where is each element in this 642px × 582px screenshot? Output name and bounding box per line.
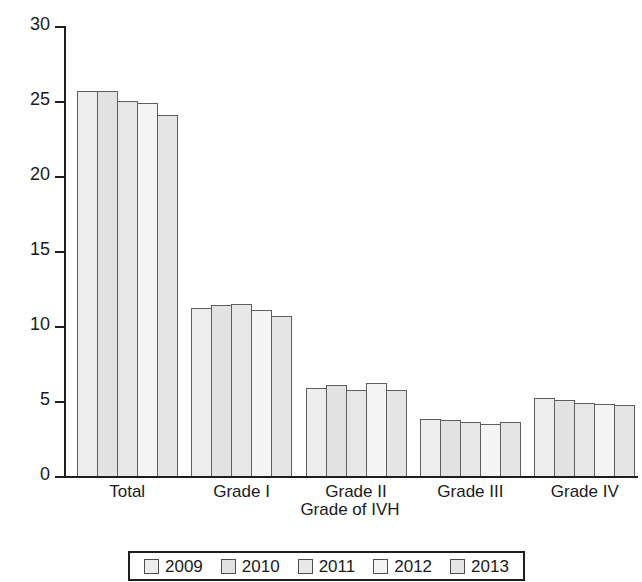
bar <box>191 308 212 476</box>
y-axis-tick-label: 10 <box>30 315 50 333</box>
legend-swatch-icon <box>221 559 236 574</box>
y-axis-tick: 15 <box>55 251 64 253</box>
y-axis-tick: 30 <box>55 26 64 28</box>
legend-swatch-icon <box>144 559 159 574</box>
y-axis-line <box>64 26 66 477</box>
legend-item: 2010 <box>221 558 280 575</box>
y-axis-tick-label: 25 <box>30 90 50 108</box>
bar <box>77 91 98 477</box>
bar <box>460 422 481 476</box>
plot-area: 051015202530 TotalGrade IGrade IIGrade I… <box>64 26 636 476</box>
bar-group <box>191 26 292 476</box>
bar <box>157 115 178 477</box>
y-axis-tick: 20 <box>55 176 64 178</box>
bar-chart-figure: Percentage of infants with IVH 051015202… <box>0 0 642 582</box>
bar <box>117 101 138 476</box>
legend-item: 2009 <box>144 558 203 575</box>
legend-item: 2011 <box>298 558 356 575</box>
bar <box>420 419 441 476</box>
y-axis-tick: 25 <box>55 101 64 103</box>
bar <box>97 91 118 477</box>
bar <box>137 103 158 477</box>
y-axis-tick: 0 <box>55 476 64 478</box>
x-axis-line <box>64 476 638 478</box>
chart-legend: 20092010201120122013 <box>128 551 525 581</box>
y-axis-tick-label: 5 <box>40 390 50 408</box>
legend-label: 2010 <box>242 558 280 575</box>
bar <box>534 398 555 476</box>
y-axis-tick-label: 0 <box>40 465 50 483</box>
y-axis-tick: 10 <box>55 326 64 328</box>
bar-group <box>534 26 635 476</box>
bar <box>251 310 272 477</box>
bar <box>271 316 292 477</box>
bar <box>346 390 367 476</box>
bar <box>574 403 595 476</box>
bar <box>440 420 461 476</box>
x-axis-tick-label: Grade IV <box>504 482 642 502</box>
legend-item: 2012 <box>373 558 432 575</box>
bar-group <box>420 26 521 476</box>
bar <box>554 400 575 477</box>
bar <box>231 304 252 477</box>
bar-group <box>306 26 407 476</box>
y-axis-tick-label: 30 <box>30 15 50 33</box>
bar <box>594 404 615 476</box>
legend-label: 2009 <box>165 558 203 575</box>
x-axis-title: Grade of IVH <box>64 500 636 520</box>
bar <box>480 424 501 477</box>
bar <box>211 305 232 476</box>
y-axis-tick-label: 20 <box>30 165 50 183</box>
bar <box>386 390 407 476</box>
bar <box>614 405 635 476</box>
legend-label: 2013 <box>471 558 509 575</box>
legend-swatch-icon <box>373 559 388 574</box>
legend-swatch-icon <box>298 559 313 574</box>
legend-label: 2011 <box>319 558 356 575</box>
legend-item: 2013 <box>450 558 509 575</box>
bar <box>500 422 521 476</box>
y-axis-tick: 5 <box>55 401 64 403</box>
y-axis-tick-label: 15 <box>30 240 50 258</box>
legend-swatch-icon <box>450 559 465 574</box>
bar-group <box>77 26 178 476</box>
bar <box>366 383 387 476</box>
bar <box>326 385 347 476</box>
bar <box>306 388 327 477</box>
legend-label: 2012 <box>394 558 432 575</box>
